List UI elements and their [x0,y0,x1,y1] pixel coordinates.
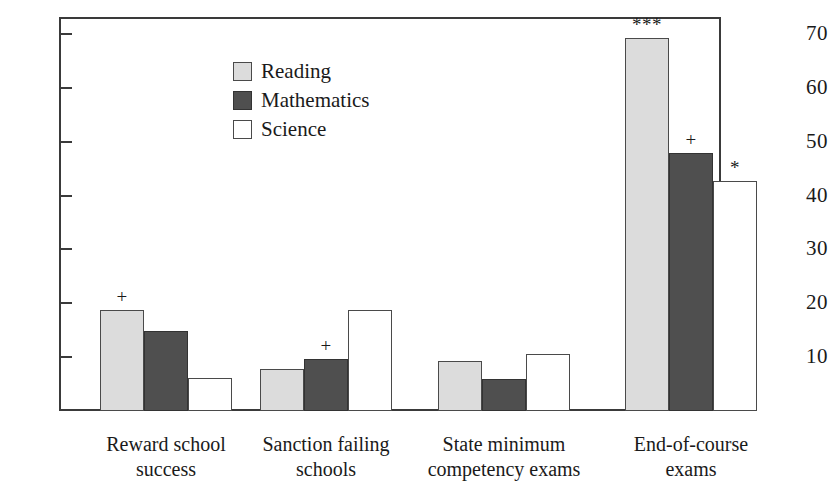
significance-marker: * [699,158,771,177]
legend-label-reading: Reading [261,61,331,82]
legend-swatch-reading-icon [233,62,252,81]
y-axis-tick-label: 30 [782,238,828,259]
bar-reading-group-2 [260,369,304,411]
legend-item-mathematics: Mathematics [233,87,369,113]
bar-science-group-2 [348,310,392,411]
bar-chart: 70605040302010 ++***+* Reading Mathemati… [0,0,828,503]
y-axis-tick-label: 10 [782,346,828,367]
y-axis-tick-label: 40 [782,185,828,206]
legend: Reading Mathematics Science [233,58,369,145]
y-axis-tick [59,33,72,35]
legend-swatch-science-icon [233,120,252,139]
bar-science-group-4 [713,181,757,411]
bar-math-group-4 [669,153,713,411]
y-axis-tick [59,248,72,250]
bar-science-group-1 [188,378,232,411]
significance-marker: + [86,287,158,306]
y-axis-tick [59,87,72,89]
category-label-line: End-of-course [586,432,796,457]
bar-math-group-2 [304,359,348,411]
bar-reading-group-3 [438,361,482,411]
bar-reading-group-1 [100,310,144,411]
legend-label-science: Science [261,119,326,140]
bar-science-group-3 [526,354,570,411]
bar-math-group-1 [144,331,188,411]
legend-item-science: Science [233,116,369,142]
y-axis-tick [59,302,72,304]
y-axis-tick-label: 20 [782,292,828,313]
category-label-line: exams [586,457,796,482]
category-label-4: End-of-courseexams [586,432,796,482]
bar-math-group-3 [482,379,526,411]
y-axis-tick [59,195,72,197]
y-axis-tick-label: 50 [782,131,828,152]
bar-reading-group-4 [625,38,669,411]
legend-label-mathematics: Mathematics [261,90,369,111]
legend-swatch-mathematics-icon [233,91,252,110]
y-axis-tick-label: 70 [782,23,828,44]
significance-marker: *** [611,15,683,34]
legend-item-reading: Reading [233,58,369,84]
y-axis-tick-label: 60 [782,77,828,98]
significance-marker: + [655,130,727,149]
y-axis-tick [59,356,72,358]
y-axis-tick [59,141,72,143]
